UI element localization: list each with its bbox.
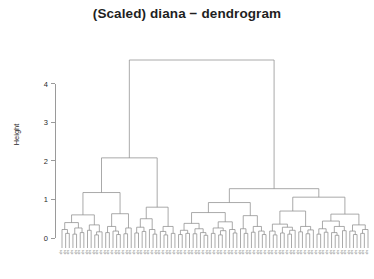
svg-text:obs: obs	[223, 249, 227, 254]
y-axis: 01234	[44, 80, 55, 243]
svg-text:obs: obs	[241, 249, 245, 254]
svg-text:obs: obs	[179, 249, 183, 254]
svg-text:obs: obs	[278, 249, 282, 254]
dendrogram-plot: (Scaled) diana − dendrogram Height 01234…	[0, 0, 374, 279]
svg-text:4: 4	[44, 80, 48, 89]
svg-text:obs: obs	[252, 249, 256, 254]
svg-text:obs: obs	[274, 249, 278, 254]
svg-text:obs: obs	[92, 249, 96, 254]
svg-text:obs: obs	[354, 249, 358, 254]
svg-text:obs: obs	[325, 249, 329, 254]
svg-text:obs: obs	[336, 249, 340, 254]
svg-text:obs: obs	[99, 249, 103, 254]
svg-text:obs: obs	[259, 249, 263, 254]
svg-text:obs: obs	[172, 249, 176, 254]
svg-text:obs: obs	[103, 249, 107, 254]
svg-text:obs: obs	[139, 249, 143, 254]
svg-text:obs: obs	[63, 249, 67, 254]
svg-text:obs: obs	[143, 249, 147, 254]
svg-text:obs: obs	[183, 249, 187, 254]
svg-text:obs: obs	[303, 249, 307, 254]
svg-text:obs: obs	[289, 249, 293, 254]
svg-text:obs: obs	[292, 249, 296, 254]
svg-text:obs: obs	[77, 249, 81, 254]
svg-text:obs: obs	[248, 249, 252, 254]
svg-text:obs: obs	[270, 249, 274, 254]
svg-text:obs: obs	[361, 249, 365, 254]
svg-text:0: 0	[44, 234, 48, 243]
svg-text:obs: obs	[114, 249, 118, 254]
dendrogram-canvas: 01234 obsobsobsobsobsobsobsobsobsobsobso…	[0, 0, 374, 279]
svg-text:obs: obs	[165, 249, 169, 254]
svg-text:obs: obs	[106, 249, 110, 254]
dendrogram-links	[62, 60, 368, 238]
dendrogram-leaf-labels: obsobsobsobsobsobsobsobsobsobsobsobsobso…	[59, 249, 369, 254]
svg-text:obs: obs	[281, 249, 285, 254]
svg-text:obs: obs	[285, 249, 289, 254]
svg-text:obs: obs	[85, 249, 89, 254]
svg-text:obs: obs	[146, 249, 150, 254]
svg-text:obs: obs	[110, 249, 114, 254]
svg-text:obs: obs	[212, 249, 216, 254]
svg-text:obs: obs	[136, 249, 140, 254]
svg-text:obs: obs	[190, 249, 194, 254]
svg-text:obs: obs	[343, 249, 347, 254]
svg-text:obs: obs	[125, 249, 129, 254]
svg-text:obs: obs	[194, 249, 198, 254]
svg-text:obs: obs	[208, 249, 212, 254]
svg-text:obs: obs	[340, 249, 344, 254]
svg-text:obs: obs	[230, 249, 234, 254]
svg-text:obs: obs	[332, 249, 336, 254]
svg-text:obs: obs	[161, 249, 165, 254]
svg-text:obs: obs	[307, 249, 311, 254]
svg-text:obs: obs	[358, 249, 362, 254]
svg-text:obs: obs	[234, 249, 238, 254]
svg-text:obs: obs	[310, 249, 314, 254]
svg-text:obs: obs	[157, 249, 161, 254]
svg-text:obs: obs	[219, 249, 223, 254]
svg-text:obs: obs	[117, 249, 121, 254]
svg-text:obs: obs	[227, 249, 231, 254]
svg-text:obs: obs	[256, 249, 260, 254]
svg-text:3: 3	[44, 118, 48, 127]
svg-text:obs: obs	[128, 249, 132, 254]
svg-text:1: 1	[44, 195, 48, 204]
svg-text:obs: obs	[321, 249, 325, 254]
svg-text:obs: obs	[95, 249, 99, 254]
svg-text:obs: obs	[205, 249, 209, 254]
svg-text:obs: obs	[70, 249, 74, 254]
svg-text:obs: obs	[350, 249, 354, 254]
svg-text:obs: obs	[59, 249, 63, 254]
svg-text:obs: obs	[299, 249, 303, 254]
svg-text:obs: obs	[132, 249, 136, 254]
svg-text:obs: obs	[267, 249, 271, 254]
svg-text:obs: obs	[216, 249, 220, 254]
svg-text:obs: obs	[329, 249, 333, 254]
svg-text:obs: obs	[314, 249, 318, 254]
svg-text:obs: obs	[88, 249, 92, 254]
svg-text:obs: obs	[201, 249, 205, 254]
svg-text:obs: obs	[176, 249, 180, 254]
svg-text:obs: obs	[365, 249, 369, 254]
svg-text:obs: obs	[197, 249, 201, 254]
svg-text:obs: obs	[238, 249, 242, 254]
svg-text:obs: obs	[318, 249, 322, 254]
svg-text:obs: obs	[187, 249, 191, 254]
svg-text:obs: obs	[150, 249, 154, 254]
svg-text:obs: obs	[263, 249, 267, 254]
svg-text:obs: obs	[245, 249, 249, 254]
svg-text:obs: obs	[347, 249, 351, 254]
svg-text:obs: obs	[74, 249, 78, 254]
svg-text:obs: obs	[296, 249, 300, 254]
svg-text:obs: obs	[66, 249, 70, 254]
svg-text:obs: obs	[81, 249, 85, 254]
svg-text:2: 2	[44, 157, 48, 166]
svg-text:obs: obs	[154, 249, 158, 254]
svg-text:obs: obs	[121, 249, 125, 254]
dendrogram-leaf-stems	[62, 238, 368, 248]
svg-text:obs: obs	[168, 249, 172, 254]
